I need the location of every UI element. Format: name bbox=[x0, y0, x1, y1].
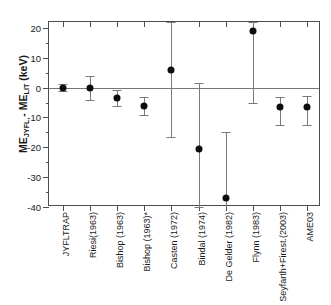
y-axis-title: MEJYFL - MELIT (keV) bbox=[17, 19, 29, 189]
x-axis-tick bbox=[90, 205, 91, 211]
x-axis-tick bbox=[144, 205, 145, 211]
x-axis-tick-top bbox=[144, 22, 145, 27]
x-axis-tick-top bbox=[199, 22, 200, 27]
error-bar-cap-lower bbox=[167, 137, 176, 138]
data-point bbox=[304, 103, 311, 110]
error-bar-cap-upper bbox=[249, 22, 258, 23]
error-bar-cap-upper bbox=[85, 76, 94, 77]
error-bar bbox=[307, 96, 308, 125]
y-axis-tick-label: 10 bbox=[30, 52, 41, 63]
x-axis-tick-top bbox=[307, 22, 308, 27]
error-bar-cap-upper bbox=[113, 90, 122, 91]
data-point bbox=[250, 27, 257, 34]
y-axis-tick-label: -20 bbox=[27, 142, 41, 153]
y-axis-tick bbox=[43, 88, 49, 89]
error-bar-cap-lower bbox=[194, 207, 203, 208]
error-bar-cap-upper bbox=[167, 22, 176, 23]
x-axis-tick-label: Bishop (1963)* bbox=[142, 212, 152, 272]
y-axis-tick-label: 20 bbox=[30, 22, 41, 33]
y-axis-tick bbox=[43, 147, 49, 148]
x-axis-tick-label: Bishop (1963) bbox=[115, 212, 125, 268]
error-bar-cap-upper bbox=[303, 96, 312, 97]
y-axis-tick-label: -40 bbox=[27, 202, 41, 213]
data-point bbox=[141, 103, 148, 110]
y-axis-title-units: (keV) bbox=[17, 55, 29, 84]
error-bar-cap-lower bbox=[113, 106, 122, 107]
data-point bbox=[59, 84, 66, 91]
y-axis-tick bbox=[43, 28, 49, 29]
error-bar bbox=[171, 22, 172, 137]
x-axis-tick bbox=[117, 205, 118, 211]
y-axis-title-container: MEJYFL - MELIT (keV) bbox=[0, 0, 26, 215]
error-bar bbox=[280, 97, 281, 125]
y-axis-minor-tick bbox=[46, 73, 49, 74]
x-axis-tick-top bbox=[226, 22, 227, 27]
error-bar-cap-upper bbox=[276, 97, 285, 98]
data-point bbox=[168, 66, 175, 73]
data-point bbox=[277, 104, 284, 111]
y-axis-minor-tick bbox=[46, 192, 49, 193]
y-axis-tick bbox=[43, 207, 49, 208]
x-axis-tick-top bbox=[117, 22, 118, 27]
x-axis-tick-label: Flynn (1983) bbox=[251, 212, 261, 263]
data-point bbox=[222, 195, 229, 202]
x-axis-tick-label: Bindal (1974) bbox=[197, 212, 207, 266]
y-axis-tick bbox=[43, 58, 49, 59]
error-bar-cap-lower bbox=[276, 125, 285, 126]
x-axis-tick-label: AME03 bbox=[305, 212, 315, 242]
x-axis-tick-label: Riesi(1963) bbox=[88, 212, 98, 258]
x-axis-tick-labels: JYFLTRAPRiesi(1963)Bishop (1963)Bishop (… bbox=[48, 212, 320, 304]
data-point bbox=[195, 145, 202, 152]
plot-area: 20100-10-20-30-40 bbox=[48, 21, 320, 206]
x-axis-tick-label: Casten (1972) bbox=[169, 212, 179, 269]
y-axis-title-sub-lit: LIT bbox=[22, 84, 31, 95]
y-axis-minor-tick bbox=[46, 132, 49, 133]
error-bar-cap-upper bbox=[194, 83, 203, 84]
y-axis-tick-label: 0 bbox=[36, 82, 41, 93]
y-axis-minor-tick bbox=[46, 103, 49, 104]
y-axis-minor-tick bbox=[46, 162, 49, 163]
error-bar-cap-lower bbox=[140, 115, 149, 116]
x-axis-tick bbox=[171, 205, 172, 211]
error-bar-cap-lower bbox=[249, 103, 258, 104]
chart-figure: MEJYFL - MELIT (keV) 20100-10-20-30-40 J… bbox=[0, 0, 331, 305]
data-point bbox=[114, 95, 121, 102]
x-axis-tick-top bbox=[63, 22, 64, 27]
error-bar-cap-upper bbox=[140, 97, 149, 98]
data-point bbox=[86, 84, 93, 91]
x-axis-tick bbox=[280, 205, 281, 211]
x-axis-tick-top bbox=[90, 22, 91, 27]
x-axis-tick-label: JYFLTRAP bbox=[61, 212, 71, 256]
y-axis-minor-tick bbox=[46, 43, 49, 44]
error-bar-cap-lower bbox=[303, 125, 312, 126]
error-bar-cap-lower bbox=[58, 91, 67, 92]
x-axis-tick bbox=[63, 205, 64, 211]
y-axis-tick bbox=[43, 117, 49, 118]
error-bar-cap-upper bbox=[221, 132, 230, 133]
x-axis-tick bbox=[253, 205, 254, 211]
x-axis-tick-label: De Gelder (1982) bbox=[224, 212, 234, 282]
y-axis-tick bbox=[43, 177, 49, 178]
y-axis-tick-label: -10 bbox=[27, 112, 41, 123]
x-axis-tick bbox=[307, 205, 308, 211]
x-axis-tick-label: Seyfarth+Firest.(2003) bbox=[278, 212, 288, 302]
error-bar-cap-lower bbox=[85, 100, 94, 101]
y-axis-tick-label: -30 bbox=[27, 172, 41, 183]
x-axis-tick-top bbox=[280, 22, 281, 27]
